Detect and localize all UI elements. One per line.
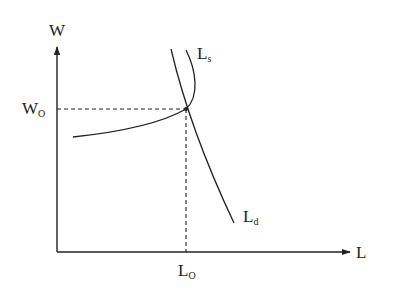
supply-label-sub: s	[207, 53, 211, 64]
y-axis-label-text: W	[49, 21, 65, 40]
supply-curve-label: Ls	[197, 45, 211, 64]
demand-label-sub: d	[253, 216, 258, 227]
equilibrium-quantity-label: LO	[178, 262, 196, 281]
demand-curve-label: Ld	[243, 208, 258, 227]
supply-label-main: L	[197, 44, 207, 63]
equilibrium-point	[184, 107, 188, 111]
wage-label-sub: O	[38, 108, 45, 119]
quantity-label-sub: O	[188, 270, 195, 281]
wage-label-main: W	[22, 99, 38, 118]
x-axis-label-text: L	[356, 243, 366, 262]
y-axis-label: W	[49, 22, 65, 39]
demand-curve	[171, 49, 234, 223]
quantity-label-main: L	[178, 261, 188, 280]
demand-label-main: L	[243, 207, 253, 226]
x-axis-label: L	[356, 244, 366, 261]
equilibrium-wage-label: WO	[22, 100, 45, 119]
supply-curve	[73, 50, 195, 137]
